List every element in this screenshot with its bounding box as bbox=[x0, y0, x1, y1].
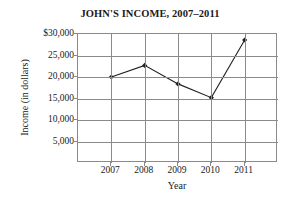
plot-area bbox=[77, 33, 277, 162]
y-axis-tick-mark bbox=[73, 119, 77, 120]
y-axis-tick-mark bbox=[73, 76, 77, 77]
x-axis-tick-mark bbox=[210, 162, 211, 166]
x-axis-tick-mark bbox=[177, 162, 178, 166]
y-axis-tick-labels: $30,00025,00020,00015,00010,0005,000 bbox=[10, 0, 74, 202]
x-axis-tick-mark bbox=[144, 162, 145, 166]
gridline-vertical bbox=[145, 34, 146, 163]
y-axis-tick-mark bbox=[73, 141, 77, 142]
y-axis-tick-label: $30,000 bbox=[12, 28, 74, 38]
x-axis-title: Year bbox=[77, 180, 277, 191]
x-axis-tick-mark bbox=[244, 162, 245, 166]
y-axis-tick-mark bbox=[73, 98, 77, 99]
y-axis-tick-label: 15,000 bbox=[12, 93, 74, 103]
gridline-vertical bbox=[245, 34, 246, 163]
x-axis-tick-label: 2011 bbox=[224, 165, 264, 175]
y-axis-tick-label: 5,000 bbox=[12, 136, 74, 146]
y-axis-tick-label: 10,000 bbox=[12, 114, 74, 124]
gridline-vertical bbox=[111, 34, 112, 163]
x-axis-tick-mark bbox=[110, 162, 111, 166]
y-axis-tick-mark bbox=[73, 33, 77, 34]
y-axis-tick-mark bbox=[73, 55, 77, 56]
y-axis-tick-label: 20,000 bbox=[12, 71, 74, 81]
gridline-vertical bbox=[178, 34, 179, 163]
gridline-vertical bbox=[211, 34, 212, 163]
chart-figure: JOHN'S INCOME, 2007–2011 Income (in doll… bbox=[0, 0, 300, 202]
y-axis-tick-label: 25,000 bbox=[12, 50, 74, 60]
